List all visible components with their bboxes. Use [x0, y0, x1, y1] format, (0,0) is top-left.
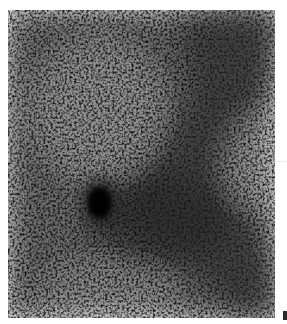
scan-texture	[8, 10, 275, 318]
focal-hotspot	[79, 175, 123, 231]
panel-label	[283, 311, 287, 320]
faint-marker-line	[275, 161, 287, 162]
scan-image	[8, 10, 275, 318]
